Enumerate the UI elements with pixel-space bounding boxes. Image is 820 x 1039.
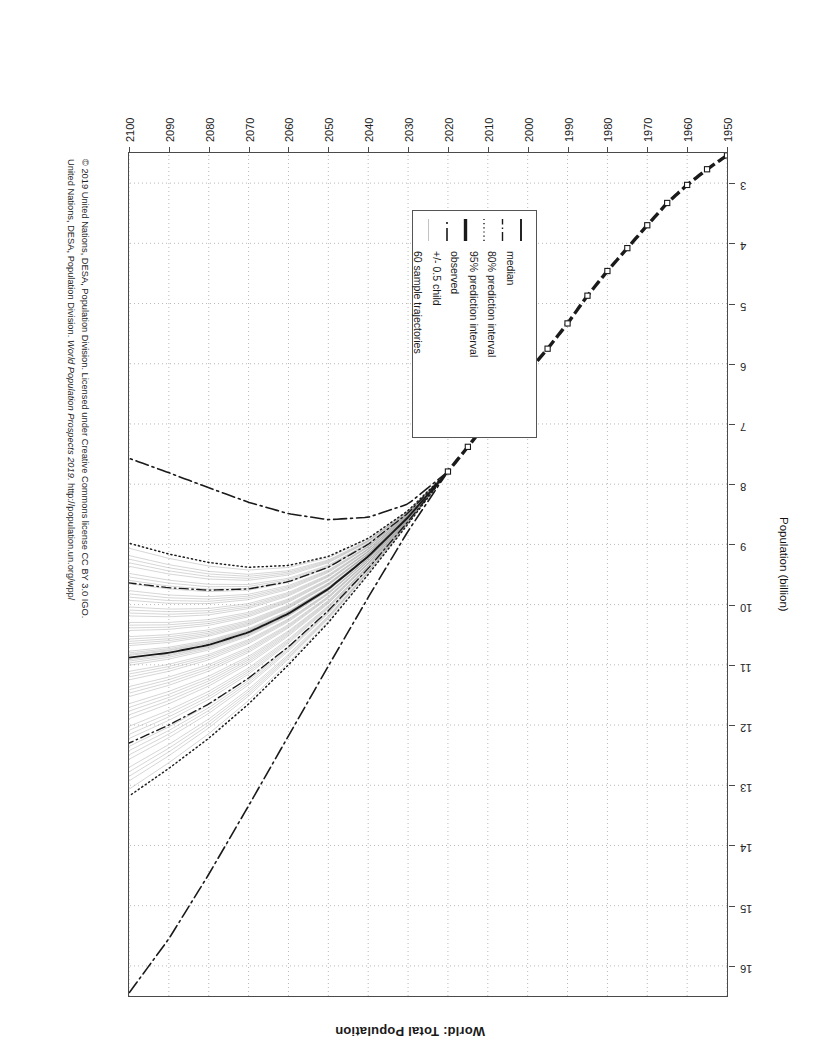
y-tick: [729, 725, 735, 726]
x-tick-label: 2100: [124, 118, 136, 142]
plot-area: median80% prediction interval95% predict…: [128, 152, 728, 997]
y-tick-label: 8: [740, 481, 762, 493]
x-tick: [249, 147, 250, 153]
x-tick: [169, 147, 170, 153]
x-tick: [328, 147, 329, 153]
x-tick: [129, 147, 130, 153]
y-tick-label: 10: [740, 602, 762, 614]
x-tick-label: 2060: [283, 118, 295, 142]
x-tick: [368, 147, 369, 153]
x-tick: [408, 147, 409, 153]
y-tick-label: 9: [740, 541, 762, 553]
x-tick-label: 2090: [164, 118, 176, 142]
x-tick: [488, 147, 489, 153]
y-tick: [729, 544, 735, 545]
x-tick-label: 2070: [244, 118, 256, 142]
y-tick: [729, 243, 735, 244]
x-tick-label: 2040: [363, 118, 375, 142]
x-tick-label: 2080: [204, 118, 216, 142]
x-tick-label: 1970: [642, 118, 654, 142]
x-tick: [727, 147, 728, 153]
x-tick-label: 2020: [443, 118, 455, 142]
x-tick: [448, 147, 449, 153]
y-tick-label: 6: [740, 361, 762, 373]
y-tick-label: 16: [740, 963, 762, 975]
y-tick-label: 5: [740, 301, 762, 313]
legend-label: 80% prediction interval: [487, 251, 499, 357]
y-tick-label: 3: [740, 180, 762, 192]
legend-label: 95% prediction interval: [468, 251, 480, 357]
x-tick: [288, 147, 289, 153]
y-tick: [729, 364, 735, 365]
x-tick-label: 2000: [523, 118, 535, 142]
y-tick: [729, 424, 735, 425]
legend-label: observed: [450, 251, 462, 294]
y-tick: [729, 785, 735, 786]
x-tick-label: 2010: [483, 118, 495, 142]
legend-label: +/- 0.5 child: [431, 251, 443, 306]
x-tick-label: 2030: [403, 118, 415, 142]
x-tick-label: 2050: [323, 118, 335, 142]
x-tick-label: 1960: [682, 118, 694, 142]
y-tick: [729, 605, 735, 606]
x-tick: [568, 147, 569, 153]
x-tick-label: 1980: [602, 118, 614, 142]
y-tick-label: 14: [740, 842, 762, 854]
x-tick-label: 1990: [563, 118, 575, 142]
y-tick-label: 7: [740, 421, 762, 433]
y-tick: [729, 304, 735, 305]
x-tick: [209, 147, 210, 153]
x-tick: [647, 147, 648, 153]
x-tick: [528, 147, 529, 153]
x-tick: [607, 147, 608, 153]
y-tick: [729, 966, 735, 967]
credit-line-1: © 2019 United Nations, DESA, Population …: [80, 159, 90, 618]
page-title: World: Total Population: [0, 1024, 820, 1039]
credit-line-2: United Nations, DESA, Population Divisio…: [66, 159, 76, 600]
legend-box: median80% prediction interval95% predict…: [412, 210, 537, 438]
y-tick: [729, 665, 735, 666]
x-tick-label: 1950: [722, 118, 734, 142]
x-tick: [687, 147, 688, 153]
population-projection-figure: World: Total Population median80% predic…: [0, 0, 820, 1039]
y-tick-label: 11: [740, 662, 762, 674]
y-tick: [729, 845, 735, 846]
y-tick: [729, 484, 735, 485]
y-tick-label: 15: [740, 903, 762, 915]
legend-label: median: [505, 251, 517, 285]
y-axis-title: Population (billion): [778, 518, 790, 613]
y-tick-label: 12: [740, 722, 762, 734]
y-tick: [729, 906, 735, 907]
y-tick-label: 13: [740, 782, 762, 794]
legend-label: 60 sample trajectories: [413, 251, 425, 354]
y-tick: [729, 183, 735, 184]
publication-title: World Population Prospects 2019: [66, 340, 76, 478]
y-tick-label: 4: [740, 240, 762, 252]
